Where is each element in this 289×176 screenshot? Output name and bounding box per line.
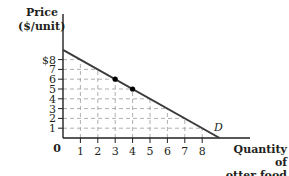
demand-line — [63, 50, 220, 138]
y-axis-title: Price ($/unit) — [18, 6, 58, 34]
origin-label: 0 — [53, 142, 61, 155]
x-axis-title: Quantity of otter food — [225, 143, 287, 176]
x-tick-label: 5 — [147, 145, 154, 158]
axes — [63, 14, 250, 138]
x-axis-title-line1: Quantity of — [225, 143, 287, 169]
x-tick-label: 3 — [112, 145, 119, 158]
x-tick-label: 4 — [129, 145, 136, 158]
x-tick-label: 8 — [199, 145, 206, 158]
y-axis-title-line2: ($/unit) — [18, 20, 58, 34]
x-tick-label: 2 — [94, 145, 101, 158]
x-tick-label: 6 — [164, 145, 171, 158]
demand-curve-label: D — [214, 121, 223, 134]
data-point — [130, 86, 135, 91]
y-tick-label: $8 — [42, 54, 56, 67]
y-axis-title-line1: Price — [18, 6, 58, 20]
grid-lines — [63, 60, 202, 138]
x-tick-label: 1 — [77, 145, 84, 158]
x-tick-label: 7 — [181, 145, 188, 158]
data-point — [113, 77, 118, 82]
x-axis-title-line2: otter food — [225, 169, 287, 176]
demand-curve — [63, 50, 220, 138]
